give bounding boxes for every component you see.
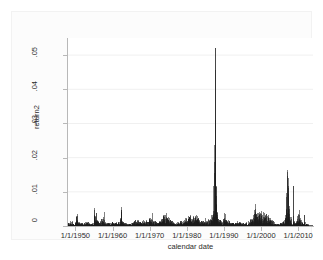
y-tick-label: .02 xyxy=(31,150,39,160)
x-axis-line xyxy=(67,226,314,227)
y-tick-label: 0 xyxy=(31,218,39,222)
series-spikes xyxy=(68,38,313,226)
x-tick-label: 1/1/1950 xyxy=(61,232,90,240)
y-tick-mark xyxy=(63,123,67,124)
y-axis-line xyxy=(67,38,68,227)
x-tick-label: 1/1/1980 xyxy=(172,232,201,240)
x-tick-label: 1/1/2010 xyxy=(284,232,313,240)
y-tick-label: .05 xyxy=(31,47,39,57)
x-tick-label: 1/1/1970 xyxy=(135,232,164,240)
y-tick-mark xyxy=(63,158,67,159)
y-tick-mark xyxy=(63,192,67,193)
graph-region: .05.04.03.02.010 1/1/19501/1/19601/1/197… xyxy=(11,11,312,240)
y-tick-label: .04 xyxy=(31,81,39,91)
y-tick-mark xyxy=(63,226,67,227)
x-tick-label: 1/1/1990 xyxy=(209,232,238,240)
y-tick-mark xyxy=(63,55,67,56)
stata-graph-figure: .05.04.03.02.010 1/1/19501/1/19601/1/197… xyxy=(0,0,323,260)
y-tick-label: .01 xyxy=(31,184,39,194)
x-tick-label: 1/1/1960 xyxy=(98,232,127,240)
x-axis-title: calendar date xyxy=(68,243,313,251)
y-tick-mark xyxy=(63,89,67,90)
y-axis-title: return2 xyxy=(33,105,41,129)
x-tick-label: 1/1/2000 xyxy=(246,232,275,240)
plot-area xyxy=(68,38,313,226)
